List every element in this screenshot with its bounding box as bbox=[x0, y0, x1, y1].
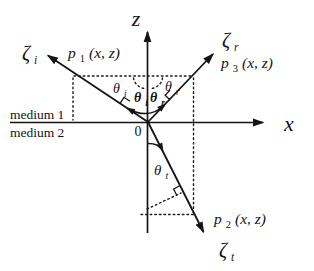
incident-angle-dotted-arc bbox=[134, 78, 145, 89]
reflected-pressure-label: p 3 (x, z) bbox=[220, 54, 273, 75]
transmitted-wavefront-dotted-line bbox=[147, 193, 181, 209]
incident-direction-label: ζ i bbox=[22, 42, 37, 66]
transmitted-direction-label: ζ t bbox=[219, 239, 235, 263]
transmitted-pressure-label: p 2 (x, z) bbox=[213, 210, 266, 231]
incident-pressure-label: p 1 (x, z) bbox=[67, 44, 120, 65]
medium-2-label: medium 2 bbox=[10, 125, 64, 140]
theta-i-outer-label: θ i bbox=[113, 79, 127, 99]
theta-i-inner-label: θ i bbox=[134, 88, 148, 108]
transmission-angle-arrowhead bbox=[157, 143, 167, 154]
theta-r-outer-label: θ r bbox=[165, 77, 180, 97]
theta-r-inner-label: θ r bbox=[150, 88, 165, 108]
wave-interface-diagram: z x 0 medium 1 medium 2 ζ i p 1 (x, z) ζ… bbox=[0, 0, 314, 271]
x-axis-label: x bbox=[283, 111, 294, 136]
medium-1-label: medium 1 bbox=[10, 107, 64, 122]
diagram-svg: z x 0 medium 1 medium 2 ζ i p 1 (x, z) ζ… bbox=[0, 0, 314, 271]
z-axis-label: z bbox=[131, 6, 141, 31]
origin-label: 0 bbox=[135, 124, 142, 139]
theta-t-label: θ t bbox=[154, 161, 168, 181]
reflected-angle-dotted-arc bbox=[152, 78, 163, 89]
reflected-direction-label: ζ r bbox=[222, 29, 239, 53]
